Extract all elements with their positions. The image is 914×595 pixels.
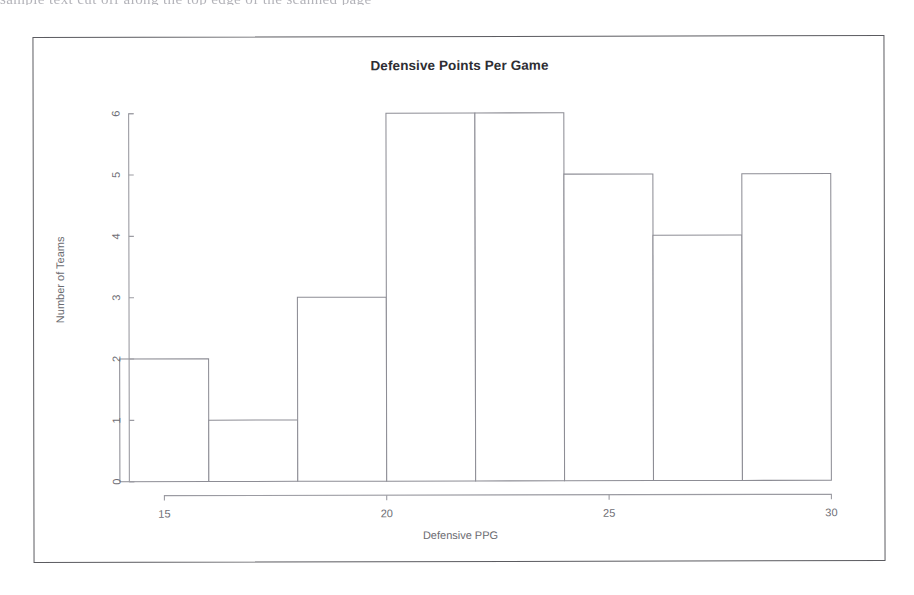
x-axis-tick-label: 30	[825, 506, 837, 518]
histogram-bar	[386, 113, 476, 481]
histogram-bar	[742, 174, 832, 481]
histogram-bar	[209, 420, 298, 482]
y-axis-title: Number of Teams	[54, 220, 66, 340]
histogram-bar	[297, 297, 386, 481]
plot-frame: Defensive Points Per Game 0123456 152025…	[32, 35, 885, 563]
histogram-bars	[119, 112, 831, 481]
y-axis-tick-label: 0	[110, 479, 122, 485]
histogram-bar	[475, 113, 565, 481]
x-axis-tick-label: 20	[381, 507, 393, 519]
x-axis: 15202530	[158, 494, 837, 519]
y-axis-tick-label: 1	[110, 417, 122, 423]
y-axis-tick-label: 3	[110, 295, 122, 301]
histogram-bar	[564, 174, 654, 481]
x-axis-title: Defensive PPG	[34, 528, 886, 542]
histogram-plot: 0123456 15202530	[33, 36, 886, 564]
y-axis-tick-label: 2	[110, 356, 122, 362]
x-axis-tick-label: 15	[158, 508, 170, 520]
scan-top-edge-artifact: sample text cut off along the top edge o…	[0, 0, 914, 5]
histogram-bar	[653, 235, 742, 481]
y-axis-tick-label: 6	[110, 111, 122, 117]
x-axis-tick-label: 25	[603, 507, 615, 519]
y-axis-tick-label: 5	[110, 172, 122, 178]
y-axis-tick-label: 4	[110, 233, 122, 239]
x-axis-line	[164, 494, 831, 500]
